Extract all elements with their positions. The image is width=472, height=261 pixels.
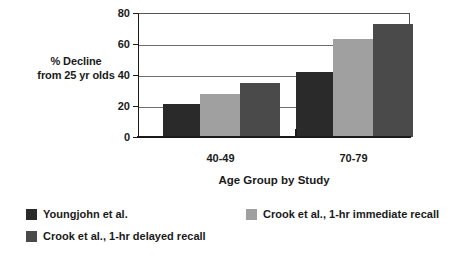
y-axis-tick-60 bbox=[133, 44, 138, 45]
bar-chart-figure: % Decline from 25 yr olds 020406080 40-4… bbox=[0, 0, 472, 261]
group-separator-tick bbox=[295, 129, 297, 137]
bar-40-49-series-2 bbox=[240, 83, 280, 137]
y-axis-tick-40 bbox=[133, 75, 138, 76]
legend-entry-0[interactable]: Youngjohn et al. bbox=[26, 208, 128, 220]
y-axis-label-60: 60 bbox=[96, 39, 130, 50]
y-axis-tick-80 bbox=[133, 13, 138, 14]
x-axis-title: Age Group by Study bbox=[138, 174, 410, 186]
y-axis-tick-20 bbox=[133, 106, 138, 107]
bar-40-49-series-1 bbox=[200, 94, 240, 137]
y-axis-label-20: 20 bbox=[96, 101, 130, 112]
y-axis-label-80: 80 bbox=[96, 8, 130, 19]
legend-label-1: Crook et al., 1-hr immediate recall bbox=[263, 208, 439, 220]
x-axis-category-label-70-79: 70-79 bbox=[314, 152, 394, 164]
bar-40-49-series-0 bbox=[163, 104, 200, 137]
bar-70-79-series-0 bbox=[296, 72, 333, 137]
legend-label-0: Youngjohn et al. bbox=[43, 208, 128, 220]
legend-swatch-icon-1 bbox=[246, 209, 257, 220]
legend-swatch-icon-2 bbox=[26, 231, 37, 242]
legend-label-2: Crook et al., 1-hr delayed recall bbox=[43, 230, 206, 242]
legend-entry-1[interactable]: Crook et al., 1-hr immediate recall bbox=[246, 208, 439, 220]
x-axis-line bbox=[137, 136, 411, 138]
legend-swatch-icon-0 bbox=[26, 209, 37, 220]
legend: Youngjohn et al.Crook et al., 1-hr immed… bbox=[26, 208, 456, 252]
bar-70-79-series-2 bbox=[373, 24, 413, 137]
y-axis-label-0: 0 bbox=[96, 132, 130, 143]
y-axis-label-40: 40 bbox=[96, 70, 130, 81]
y-axis-tick-0 bbox=[133, 137, 138, 138]
bar-70-79-series-1 bbox=[333, 39, 373, 137]
legend-entry-2[interactable]: Crook et al., 1-hr delayed recall bbox=[26, 230, 206, 242]
plot-area bbox=[138, 13, 410, 137]
x-axis-category-label-40-49: 40-49 bbox=[181, 152, 261, 164]
